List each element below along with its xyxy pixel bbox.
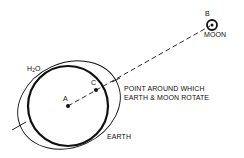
earth-label: EARTH [107, 133, 131, 141]
point-b-label: B [205, 10, 210, 18]
point-c-label: C [91, 79, 96, 87]
point-c-dot [94, 88, 98, 92]
barycenter-label-line1: POINT AROUND WHICH [124, 85, 205, 93]
barycenter-label-line2: EARTH & MOON ROTATE [124, 94, 209, 102]
moon-center-dot [211, 24, 214, 27]
earth-moon-tide-diagram: B MOON H2O C A POINT AROUND WHICH EARTH … [0, 0, 244, 158]
point-a-dot [66, 104, 70, 108]
moon-label: MOON [204, 31, 226, 39]
water-label-o: O [35, 65, 41, 72]
point-a-label: A [63, 95, 68, 103]
water-label: H2O [27, 65, 41, 74]
